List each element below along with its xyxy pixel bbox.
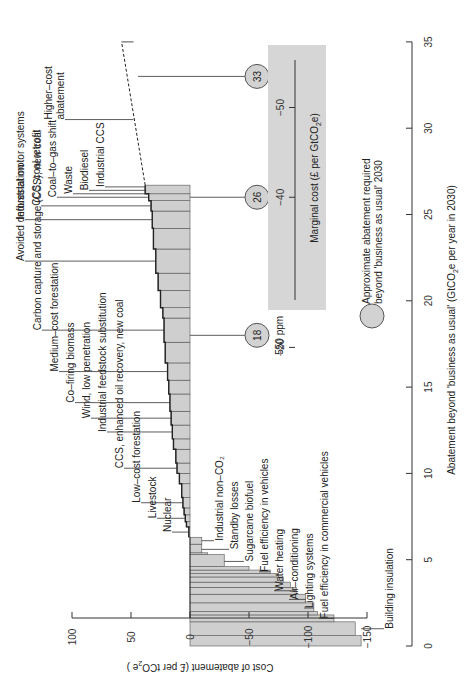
bar xyxy=(179,473,190,483)
panel-tick-label: −50 xyxy=(275,99,286,116)
bar-label: Sugarcane biofuel xyxy=(244,481,255,562)
legend-text: beyond 'business as usual' 2030 xyxy=(373,160,384,304)
dashed-line xyxy=(122,42,146,185)
bar-label: Coal–to–gas shift xyxy=(47,120,58,197)
legend: Approximate abatement requiredbeyond 'bu… xyxy=(360,158,384,328)
bar xyxy=(163,308,190,318)
y-axis-title: Cost of abatement (£ per tCO2e ) xyxy=(127,660,274,673)
y-tick-label: −100 xyxy=(303,625,314,648)
bar xyxy=(190,622,355,636)
bar xyxy=(190,636,361,646)
bar-label: Medium–cost forestation xyxy=(49,263,60,372)
bar xyxy=(145,185,190,194)
bar xyxy=(190,537,202,544)
bar xyxy=(156,249,190,273)
bar-label: Low–cost forestation xyxy=(131,411,142,503)
panel-tick-label: −40 xyxy=(275,188,286,205)
marginal-cost-panel: −20−40−50Marginal cost (£ per GtCO2e) xyxy=(268,45,326,356)
bar xyxy=(190,555,224,567)
bar xyxy=(152,211,190,228)
bar-label: CCS; coal retrofit xyxy=(31,130,42,206)
x-tick-label: 0 xyxy=(423,643,434,649)
y-tick-label: 50 xyxy=(126,631,137,643)
x-tick-label: 30 xyxy=(423,122,434,134)
circle-value: 33 xyxy=(252,70,263,82)
x-tick-label: 25 xyxy=(423,209,434,221)
bar xyxy=(190,577,283,582)
label-higher-cost: Higher–cost xyxy=(43,66,54,120)
bar xyxy=(182,484,190,498)
bar xyxy=(176,449,190,463)
x-tick-label: 20 xyxy=(423,295,434,307)
y-tick-label: 0 xyxy=(185,634,196,640)
bar xyxy=(171,411,190,425)
bar xyxy=(164,318,190,342)
bar xyxy=(149,194,190,201)
bar-label: Wind, low penetration xyxy=(81,322,92,418)
bar-label: Building insulation xyxy=(384,548,395,629)
bar xyxy=(158,273,190,290)
bar-label: Industrial non–CO₂ xyxy=(214,456,225,541)
marginal-abatement-cost-chart: Building insulationFuel efficiency in co… xyxy=(0,0,469,685)
y-tick-label: −150 xyxy=(362,625,373,648)
bar xyxy=(185,515,190,522)
bar-label: Water heating xyxy=(274,529,285,591)
x-axis-title: Abatement beyond 'business as usual' (Gt… xyxy=(446,185,459,475)
bar-label: Co–firing biomass xyxy=(65,323,76,403)
bar xyxy=(177,463,190,473)
abatement-axis: 05101520253035Abatement beyond 'business… xyxy=(406,36,459,649)
bar-label: Industrial motor systems xyxy=(15,111,26,219)
legend-circle xyxy=(360,304,384,328)
x-tick-label: 35 xyxy=(423,36,434,48)
legend-text: Approximate abatement required xyxy=(361,158,372,304)
x-tick-label: 5 xyxy=(423,556,434,562)
y-tick-label: 100 xyxy=(67,628,78,645)
higher-cost-extension xyxy=(122,42,146,185)
label-higher-cost: abatement xyxy=(55,72,66,119)
circle-value: 18 xyxy=(252,329,263,341)
bar-labels: Building insulationFuel efficiency in co… xyxy=(15,66,395,629)
bar xyxy=(172,425,190,439)
bar xyxy=(170,394,190,411)
bar-label: Air–conditioning xyxy=(289,528,300,599)
circle-value: 26 xyxy=(252,191,263,203)
panel-tick-label: −20 xyxy=(275,338,286,355)
bar xyxy=(161,290,191,307)
y-tick-label: −50 xyxy=(244,628,255,645)
bar xyxy=(190,611,317,614)
bar xyxy=(151,201,190,211)
bar xyxy=(165,342,190,363)
bar xyxy=(184,508,190,515)
bar xyxy=(190,574,279,577)
bar-label: Fuel efficiency in commercial vehicles xyxy=(319,451,330,618)
bar xyxy=(168,363,190,380)
bar-label: Biodiesel xyxy=(79,150,90,191)
bar xyxy=(173,439,190,449)
bar xyxy=(190,544,202,553)
bar-label: Fuel efficiency in vehicles xyxy=(259,459,270,572)
x-tick-label: 15 xyxy=(423,381,434,393)
bar xyxy=(190,567,249,570)
bar-label: CCS, enhanced oil recovery, new coal xyxy=(114,299,125,468)
bar-label: Standby losses xyxy=(229,482,240,550)
bar xyxy=(169,380,190,394)
x-tick-label: 10 xyxy=(423,467,434,479)
bar-label: Industrial feedstock substitution xyxy=(97,292,108,432)
bar xyxy=(183,498,190,508)
bar xyxy=(153,228,190,249)
bar xyxy=(190,603,314,612)
bar-label: Nuclear xyxy=(162,497,173,532)
bar-label: Waste xyxy=(63,165,74,193)
bar-label: Industrial CCS xyxy=(95,122,106,187)
bar-label: Lighting systems xyxy=(304,534,315,608)
bar-label: Livestock xyxy=(147,476,158,519)
